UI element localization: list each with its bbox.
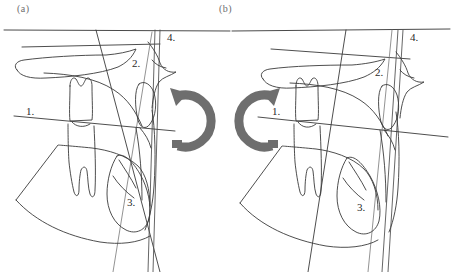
label-a-4: 4. [167, 31, 175, 43]
label-a-1: 1. [26, 105, 34, 117]
figure-root: (a) (b) 1. 2. 3. 4. 1. 2. 3. 4. [0, 0, 453, 272]
lower-molar-b [294, 124, 321, 197]
label-b-1: 1. [272, 105, 280, 117]
lower-molar-a [68, 124, 95, 197]
occlusal-plane-line-b [258, 117, 448, 137]
label-a-3: 3. [127, 196, 135, 208]
panel-caption-a: (a) [17, 3, 30, 14]
oblique-reference-line-a [96, 30, 160, 272]
palatal-plane-line-a [22, 44, 160, 47]
tracing-svg [0, 0, 453, 272]
label-b-2: 2. [375, 66, 383, 78]
condyle-notch-b [384, 130, 395, 150]
label-a-2: 2. [132, 57, 140, 69]
ramus-anterior-border-a [136, 128, 142, 200]
panel-a-tracing [14, 30, 176, 272]
rotation-arrow-a [170, 88, 211, 148]
upper-molar-a [70, 78, 93, 121]
maxillary-sweep-curve-a [44, 73, 142, 126]
rotation-arrow-b [239, 88, 280, 148]
condyle-outline-b [379, 84, 399, 129]
maxilla-outline-a [15, 49, 136, 78]
pterygomaxillary-fissure-b [396, 52, 424, 118]
maxillary-sweep-curve-b [290, 83, 388, 136]
top-reference-line-a [4, 30, 230, 31]
label-b-3: 3. [357, 201, 365, 213]
maxilla-outline-b [261, 59, 385, 88]
pterygomaxillary-fissure-a [148, 42, 176, 108]
condyle-notch-a [140, 128, 151, 148]
label-b-4: 4. [410, 31, 418, 43]
panel-caption-b: (b) [219, 3, 232, 14]
panel-b-tracing [240, 30, 448, 272]
